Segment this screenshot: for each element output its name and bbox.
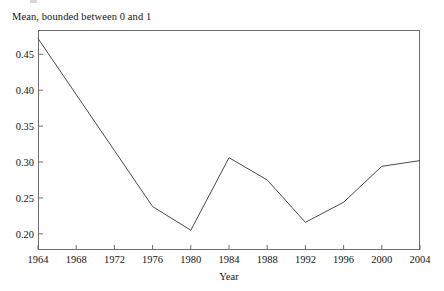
x-tick-label: 1980 [180,254,201,266]
x-tick-label: 2004 [410,254,431,266]
y-tick-label: 0.40 [16,85,34,96]
y-tick-label: 0.30 [16,157,34,168]
y-axis-title: Mean, bounded between 0 and 1 [12,10,151,23]
x-tick-label: 1976 [142,254,163,266]
scan-artifact [30,0,37,3]
y-axis-tick-labels: 0.200.250.300.350.400.45 [0,30,34,250]
y-tick-label: 0.35 [16,121,34,132]
x-tick-label: 1996 [333,254,354,266]
axis-ticks [38,54,420,250]
y-tick-label: 0.45 [16,49,34,60]
x-axis-title: Year [38,271,420,283]
plot-area [38,30,420,250]
data-series-svg [38,30,420,250]
x-tick-label: 1984 [219,254,240,266]
x-tick-label: 1988 [257,254,278,266]
x-tick-label: 1992 [295,254,316,266]
x-axis-tick-labels: 1964196819721976198019841988199219962000… [38,254,420,268]
x-tick-label: 1972 [104,254,125,266]
y-tick-label: 0.25 [16,192,34,203]
x-tick-label: 1968 [66,254,87,266]
x-tick-label: 1964 [28,254,49,266]
data-line-mean [38,38,420,230]
y-tick-label: 0.20 [16,228,34,239]
line-chart-figure: Mean, bounded between 0 and 1 0.200.250.… [0,0,444,291]
x-tick-label: 2000 [371,254,392,266]
